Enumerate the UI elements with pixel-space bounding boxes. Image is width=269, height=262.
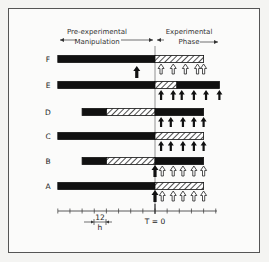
row-label: D (45, 108, 51, 117)
arrow-right-icon (91, 220, 94, 223)
row-label: A (45, 182, 51, 191)
open-arrow-icon (158, 64, 164, 74)
solid-arrow-icon (191, 141, 197, 151)
open-arrow-icon (170, 166, 176, 176)
open-arrow-icon (159, 191, 165, 201)
row-b: B (45, 157, 206, 177)
scale-value: 12 (95, 213, 105, 222)
solid-arrow-icon (158, 90, 164, 100)
pre-experimental-title: Pre-experimental (67, 28, 127, 36)
t0-arrow-icon (152, 165, 159, 177)
open-arrow-icon (180, 191, 186, 201)
solid-arrow-icon (168, 141, 174, 151)
open-arrow-icon (195, 64, 201, 74)
solid-arrow-icon (191, 90, 197, 100)
time-axis: T = 0 12 h (58, 204, 217, 232)
solid-segment (58, 82, 155, 89)
solid-segment (58, 56, 155, 63)
open-arrow-icon (191, 191, 197, 201)
open-arrow-icon (180, 166, 186, 176)
solid-segment (82, 109, 106, 116)
arrow-left-icon (106, 220, 109, 223)
hatched-segment (155, 56, 204, 63)
open-arrow-icon (201, 64, 207, 74)
solid-arrow-icon (180, 141, 186, 151)
manipulation-title: Manipulation (74, 38, 119, 46)
solid-segment (58, 133, 155, 140)
timeline-diagram: Pre-experimental Manipulation Experiment… (0, 0, 269, 262)
solid-segment (155, 109, 204, 116)
solid-arrow-icon (191, 117, 197, 127)
pre-arrow-icon (133, 66, 140, 78)
solid-segment (82, 158, 106, 165)
rows: FEDCBA (45, 55, 222, 202)
open-arrow-icon (159, 166, 165, 176)
t0-label: T = 0 (144, 217, 166, 226)
solid-segment (177, 82, 220, 89)
hatched-segment (155, 183, 204, 190)
row-label: E (46, 81, 51, 90)
solid-arrow-icon (168, 117, 174, 127)
hatched-segment (106, 109, 155, 116)
solid-segment (155, 158, 204, 165)
row-label: F (46, 55, 50, 64)
scale-unit: h (98, 223, 103, 232)
arrow-left-icon (157, 38, 161, 42)
t0-arrow-icon (152, 190, 159, 202)
row-label: B (45, 157, 50, 166)
row-f: F (46, 55, 207, 78)
arrow-right-icon (149, 38, 153, 42)
phase-title: Phase (179, 38, 200, 46)
row-e: E (46, 81, 223, 100)
open-arrow-icon (170, 64, 176, 74)
open-arrow-icon (201, 191, 207, 201)
solid-arrow-icon (180, 117, 186, 127)
header: Pre-experimental Manipulation Experiment… (60, 28, 218, 46)
arrow-right-icon (214, 40, 218, 44)
solid-arrow-icon (201, 141, 207, 151)
solid-arrow-icon (170, 90, 176, 100)
open-arrow-icon (182, 64, 188, 74)
solid-arrow-icon (179, 90, 185, 100)
arrow-left-icon (60, 38, 64, 42)
solid-arrow-icon (216, 90, 222, 100)
row-label: C (45, 132, 50, 141)
solid-arrow-icon (158, 117, 164, 127)
row-d: D (45, 108, 206, 127)
hatched-segment (106, 158, 155, 165)
open-arrow-icon (201, 166, 207, 176)
solid-arrow-icon (158, 141, 164, 151)
row-c: C (45, 132, 206, 151)
hatched-segment (155, 133, 204, 140)
solid-arrow-icon (201, 117, 207, 127)
open-arrow-icon (191, 166, 197, 176)
solid-arrow-icon (203, 90, 209, 100)
row-a: A (45, 182, 206, 202)
experimental-title: Experimental (166, 28, 213, 36)
solid-segment (58, 183, 155, 190)
open-arrow-icon (170, 191, 176, 201)
hatched-segment (155, 82, 177, 89)
